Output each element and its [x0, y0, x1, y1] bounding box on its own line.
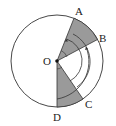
label-A: A — [75, 5, 83, 17]
label-D: D — [53, 111, 61, 123]
label-B: B — [99, 32, 106, 44]
center-point-O — [55, 59, 59, 63]
label-C: C — [85, 98, 92, 110]
circle-sector-diagram: A B C D O — [0, 0, 116, 126]
label-O: O — [43, 55, 51, 67]
